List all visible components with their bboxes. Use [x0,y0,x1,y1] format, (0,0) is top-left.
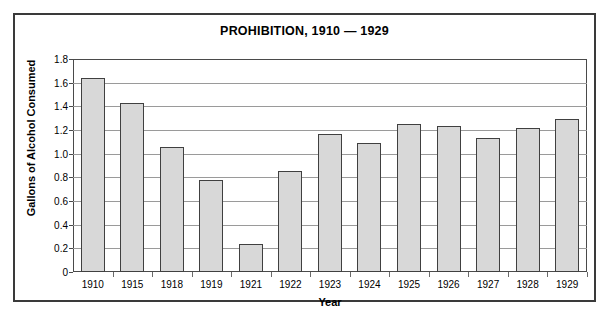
bar[interactable] [476,138,500,272]
y-tick-label: 1.0 [54,148,68,159]
x-tick-mark [271,272,272,277]
bar-slot [429,59,469,272]
bar[interactable] [81,78,105,272]
x-tick-label: 1924 [350,279,390,290]
bar[interactable] [239,244,263,272]
bar-slot [271,59,311,272]
x-tick-mark [113,272,114,277]
bar[interactable] [437,126,461,272]
x-axis-title: Year [73,296,587,308]
bar-slot [73,59,113,272]
chart-frame: PROHIBITION, 1910 — 1929 Gallons of Alco… [13,13,596,302]
bar-slot [192,59,232,272]
x-tick-mark [310,272,311,277]
bar[interactable] [397,124,421,272]
bar[interactable] [318,134,342,272]
x-tick-mark [389,272,390,277]
y-tick-label: 0.2 [54,243,68,254]
x-tick-mark [152,272,153,277]
bar-slot [389,59,429,272]
x-axis-ticks [73,272,587,278]
bar[interactable] [120,103,144,272]
bar[interactable] [199,180,223,272]
y-tick-label: 1.2 [54,124,68,135]
bar-slot [468,59,508,272]
x-tick-mark [508,272,509,277]
bar-slot [152,59,192,272]
x-tick-label: 1918 [152,279,192,290]
x-tick-label: 1915 [113,279,153,290]
bar[interactable] [357,143,381,272]
x-tick-mark [468,272,469,277]
chart-title: PROHIBITION, 1910 — 1929 [15,24,594,38]
bar-slot [113,59,153,272]
x-tick-label: 1921 [231,279,271,290]
bar-series [73,59,587,272]
y-tick-label: 0 [62,267,68,278]
y-tick-label: 0.6 [54,195,68,206]
bar-slot [310,59,350,272]
bar[interactable] [516,128,540,272]
bar-slot [350,59,390,272]
x-tick-mark [350,272,351,277]
x-tick-mark [547,272,548,277]
x-tick-label: 1925 [389,279,429,290]
x-tick-mark [429,272,430,277]
y-tick-label: 0.8 [54,172,68,183]
bar-slot [231,59,271,272]
x-tick-label: 1926 [429,279,469,290]
x-axis-tick-labels: 1910191519181919192119221923192419251926… [73,279,587,290]
x-tick-mark [231,272,232,277]
y-axis-title: Gallons of Alcohol Consumed [25,38,37,238]
plot-wrapper: 00.20.40.60.81.01.21.41.61.8 19101915191… [73,59,587,272]
x-tick-mark [587,272,588,277]
bar-slot [547,59,587,272]
x-tick-label: 1928 [508,279,548,290]
bar[interactable] [160,147,184,272]
x-tick-label: 1910 [73,279,113,290]
y-tick-label: 1.8 [54,54,68,65]
x-tick-label: 1922 [271,279,311,290]
x-tick-label: 1923 [310,279,350,290]
x-tick-label: 1929 [547,279,587,290]
y-tick-label: 1.6 [54,77,68,88]
bar[interactable] [555,119,579,272]
bar-slot [508,59,548,272]
x-tick-label: 1927 [468,279,508,290]
x-tick-label: 1919 [192,279,232,290]
y-tick-label: 1.4 [54,101,68,112]
y-tick-label: 0.4 [54,219,68,230]
bar[interactable] [278,171,302,272]
x-tick-mark [192,272,193,277]
